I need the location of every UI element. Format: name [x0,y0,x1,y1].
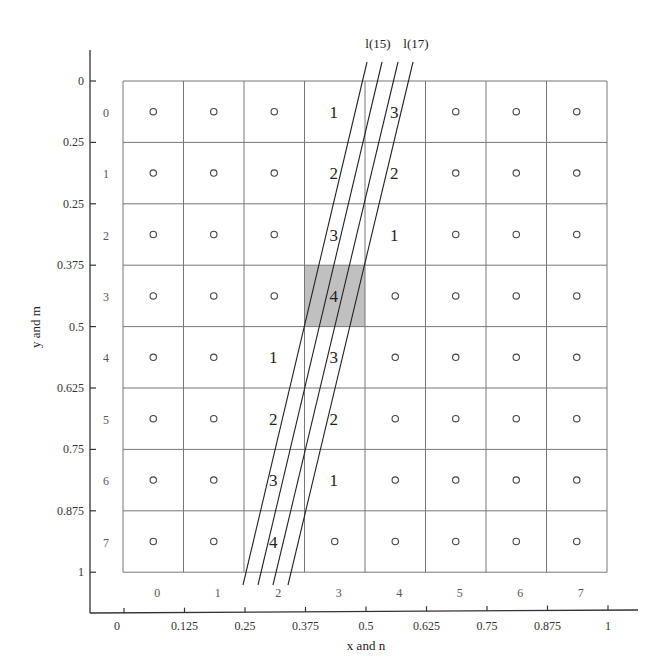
empty-cell-marker [211,538,217,544]
empty-cell-marker [211,477,217,483]
empty-cell-marker [453,354,459,360]
empty-cell-marker [453,231,459,237]
empty-cell-marker [392,293,398,299]
empty-cell-marker [392,354,398,360]
y-tick-label: 0.5 [69,320,84,334]
column-index-label: 3 [336,586,342,600]
x-tick-label: 0.75 [477,619,498,633]
column-index-label: 0 [154,586,160,600]
empty-cell-marker [332,538,338,544]
empty-cell-marker [453,477,459,483]
empty-cell-marker [513,538,519,544]
empty-cell-marker [150,293,156,299]
empty-cell-marker [513,231,519,237]
intersection-count: 1 [269,348,278,367]
empty-cell-marker [150,170,156,176]
x-tick-label: 0.375 [292,619,319,633]
y-axis-title: y and m [28,306,43,348]
x-tick-label: 0.125 [171,619,198,633]
column-index-label: 5 [457,586,463,600]
column-index-label: 1 [215,586,221,600]
y-tick-label: 0.875 [57,504,84,518]
empty-cell-marker [453,416,459,422]
y-tick-label: 1 [78,565,84,579]
empty-cell-marker [453,538,459,544]
x-axis-title: x and n [347,638,386,653]
row-index-label: 3 [103,290,109,304]
pixel-grid-diagram: 13223141322314 00.250.250.3750.50.6250.7… [0,0,672,671]
row-index-label: 4 [103,351,109,365]
x-tick-label: 1 [605,619,611,633]
line-label-l17: l(17) [403,36,428,51]
y-tick-label: 0.625 [57,381,84,395]
column-index-label: 4 [396,586,402,600]
intersection-count: 2 [330,410,339,429]
column-index-label: 2 [275,586,281,600]
axes [90,50,638,613]
intersection-count: 3 [390,103,399,122]
x-tick-label: 0.5 [359,619,374,633]
empty-cell-marker [271,170,277,176]
x-tick-label: 0.625 [413,619,440,633]
empty-cell-marker [271,231,277,237]
intersection-count: 3 [330,226,339,245]
empty-cell-marker [453,293,459,299]
empty-cell-marker [574,538,580,544]
empty-cell-marker [513,293,519,299]
projection-line [273,62,398,585]
empty-cell-marker [211,109,217,115]
y-tick-label: 0.25 [63,197,84,211]
row-index-label: 2 [103,229,109,243]
row-index-label: 1 [103,167,109,181]
empty-cell-marker [574,109,580,115]
intersection-count: 1 [330,471,339,490]
empty-cell-marker [574,170,580,176]
row-index-label: 7 [103,536,109,550]
empty-cell-marker [574,354,580,360]
intersection-count: 2 [330,164,339,183]
row-index-label: 6 [103,474,109,488]
empty-cell-marker [150,109,156,115]
intersection-count: 2 [390,164,399,183]
y-tick-label: 0.25 [63,135,84,149]
empty-cell-marker [453,170,459,176]
row-index-label: 5 [103,413,109,427]
empty-cell-marker [574,231,580,237]
empty-cell-marker [453,109,459,115]
empty-cell-marker [150,231,156,237]
empty-cell-marker [574,293,580,299]
empty-cell-marker [392,538,398,544]
intersection-count: 3 [330,348,339,367]
empty-cell-marker [513,477,519,483]
x-tick-label: 0.875 [534,619,561,633]
empty-cell-marker [271,293,277,299]
x-axis-line [90,610,638,613]
y-tick-label: 0.75 [63,442,84,456]
empty-cell-marker [211,293,217,299]
empty-cell-marker [392,477,398,483]
empty-cell-marker [150,477,156,483]
empty-cell-marker [150,538,156,544]
empty-cell-marker [211,231,217,237]
y-tick-label: 0 [78,74,84,88]
line-label-l15: l(15) [365,36,390,51]
grid-lines [123,81,607,572]
empty-cell-marker [513,416,519,422]
y-tick-label: 0.375 [57,258,84,272]
row-index-label: 0 [103,106,109,120]
empty-cell-marker [211,170,217,176]
intersection-count: 2 [269,410,278,429]
empty-cell-marker [574,416,580,422]
x-tick-label: 0 [114,619,120,633]
empty-cell-marker [271,109,277,115]
intersection-count: 3 [269,471,278,490]
column-index-label: 6 [517,586,523,600]
empty-cell-marker [211,354,217,360]
empty-cell-marker [513,170,519,176]
intersection-count: 4 [330,287,339,306]
intersection-count: 1 [330,103,339,122]
intersection-count: 1 [390,226,399,245]
empty-cell-marker [150,416,156,422]
empty-cell-marker [211,416,217,422]
intersection-count: 4 [269,533,278,552]
